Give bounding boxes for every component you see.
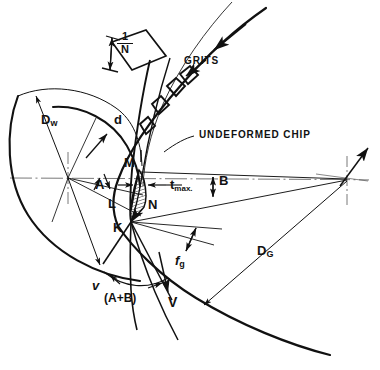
workpiece-velocity-label: v (92, 279, 99, 292)
grit-spacing-label: 1 N (117, 31, 133, 55)
point-m-label: M (124, 156, 135, 169)
angle-sum-label: (A+B) (104, 292, 136, 304)
depth-of-cut-arrow (86, 134, 107, 158)
grit-spacing-denominator: N (117, 44, 133, 56)
point-k-label: K (113, 221, 122, 234)
wheel-construction-arc (143, 2, 232, 186)
grinding-chip-diagram: 1 N GRITS UNDEFORMED CHIP Dw d tmax. A B… (0, 0, 380, 370)
wheel-diameter-subscript: G (266, 249, 273, 259)
undeformed-chip-leader (164, 136, 194, 152)
angle-a-label: A (95, 178, 104, 191)
depth-of-cut-label: d (114, 113, 122, 126)
workpiece-diameter-symbol: D (41, 112, 50, 127)
point-n-label: N (148, 198, 157, 211)
workpiece-center-construction (52, 118, 96, 222)
wheel-diameter-symbol: D (257, 243, 266, 258)
wheel-velocity-label: V (168, 295, 177, 309)
wheel-center-ray-lower (131, 180, 347, 222)
wheel-diameter-label: DG (257, 244, 273, 259)
point-l-label: L (108, 197, 116, 210)
wheel-diameter-line (204, 181, 347, 305)
undeformed-chip-label: UNDEFORMED CHIP (199, 130, 311, 140)
angle-b-label: B (219, 174, 228, 187)
workpiece-diameter-subscript: w (50, 118, 57, 128)
chip-thickness-label: tmax. (170, 178, 193, 193)
grit-feed-label: fg (175, 254, 185, 269)
grits-label: GRITS (184, 56, 219, 66)
workpiece-diameter-label: Dw (41, 113, 57, 128)
chip-thickness-subscript: max. (174, 184, 192, 193)
grit-feed-subscript: g (179, 259, 185, 269)
grit-spacing-numerator: 1 (117, 31, 133, 43)
